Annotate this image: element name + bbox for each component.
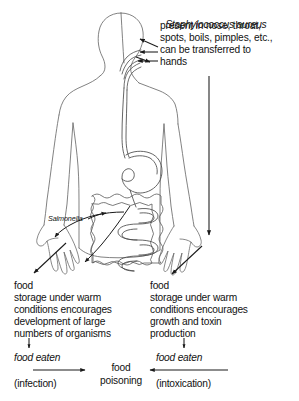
- staph-callout-line3: can be transferred to: [160, 44, 251, 55]
- right-food-eaten: food eaten: [156, 352, 202, 363]
- staph-callout-line4: hands: [160, 56, 187, 67]
- right-line-2: conditions encourages: [150, 304, 248, 317]
- outcome-line-2: poisoning: [89, 375, 153, 388]
- right-mechanism: (intoxication): [156, 378, 211, 389]
- right-line-1: storage under warm: [150, 292, 237, 305]
- right-line-3: growth and toxin: [150, 316, 222, 329]
- left-mechanism: (infection): [14, 378, 57, 389]
- left-line-4: numbers of organisms: [14, 328, 111, 341]
- outcome-line-1: food: [95, 362, 147, 375]
- food-poisoning-diagram: [0, 0, 299, 401]
- left-food-eaten: food eaten: [14, 352, 60, 363]
- right-food-label: food: [150, 280, 169, 293]
- left-line-2: conditions encourages: [14, 304, 112, 317]
- right-line-4: production: [150, 328, 196, 341]
- staph-callout-line2: spots, boils, pimples, etc.,: [160, 32, 272, 43]
- staph-callout-line1: present in nose, throat,: [160, 20, 261, 31]
- left-line-3: development of large: [14, 316, 105, 329]
- canvas-background: [0, 0, 299, 401]
- salmonella-label: Salmonella: [48, 213, 83, 224]
- left-line-1: storage under warm: [14, 292, 101, 305]
- left-food-label: food: [14, 280, 33, 293]
